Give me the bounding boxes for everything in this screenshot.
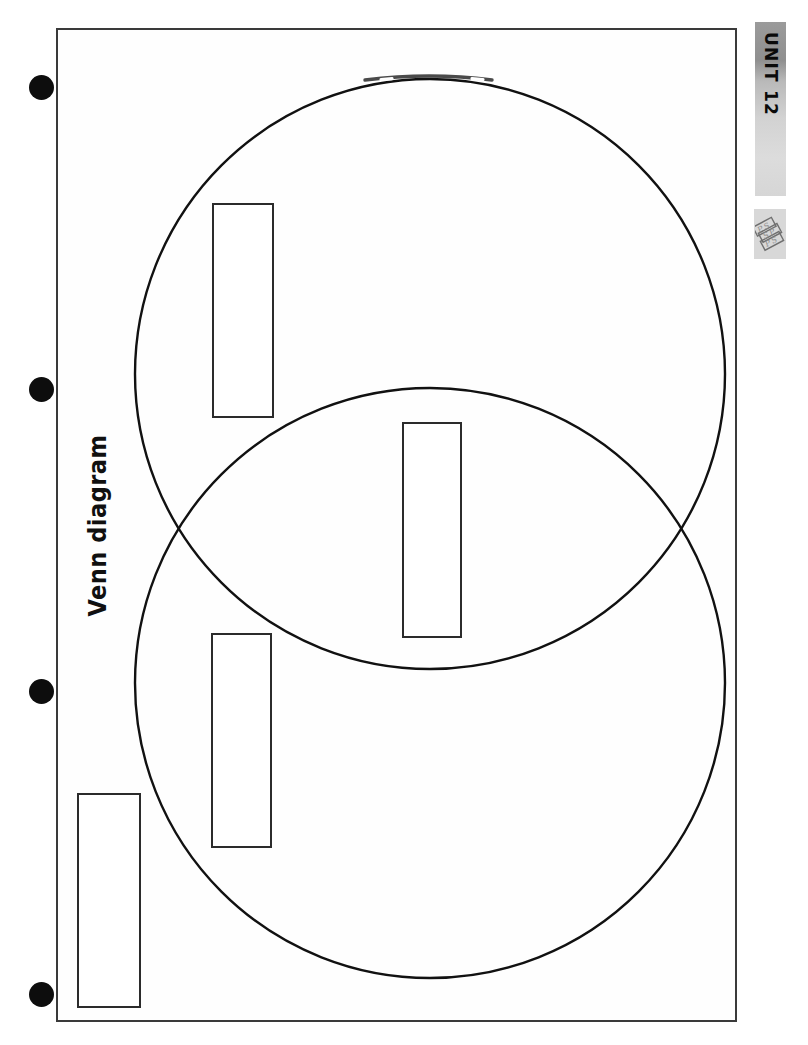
hole-punch-1: [29, 75, 54, 100]
unit-tab-label: UNIT 12: [761, 32, 781, 116]
label-box-bottom-circle-only[interactable]: [211, 633, 272, 848]
worksheet-page: Venn diagram UNIT 12 P S S P P S: [0, 0, 808, 1045]
sheet-border: [56, 28, 737, 1022]
unit-tab: UNIT 12: [755, 22, 786, 196]
label-box-top-circle-only[interactable]: [212, 203, 274, 418]
label-box-outside[interactable]: [77, 793, 141, 1008]
page-title: Venn diagram: [75, 430, 121, 620]
label-box-intersection[interactable]: [402, 422, 462, 638]
hole-punch-4: [29, 982, 54, 1007]
hole-punch-2: [29, 377, 54, 402]
publisher-logo-icon: P S S P P S: [754, 209, 786, 259]
page-title-text: Venn diagram: [84, 434, 113, 616]
hole-punch-3: [29, 679, 54, 704]
